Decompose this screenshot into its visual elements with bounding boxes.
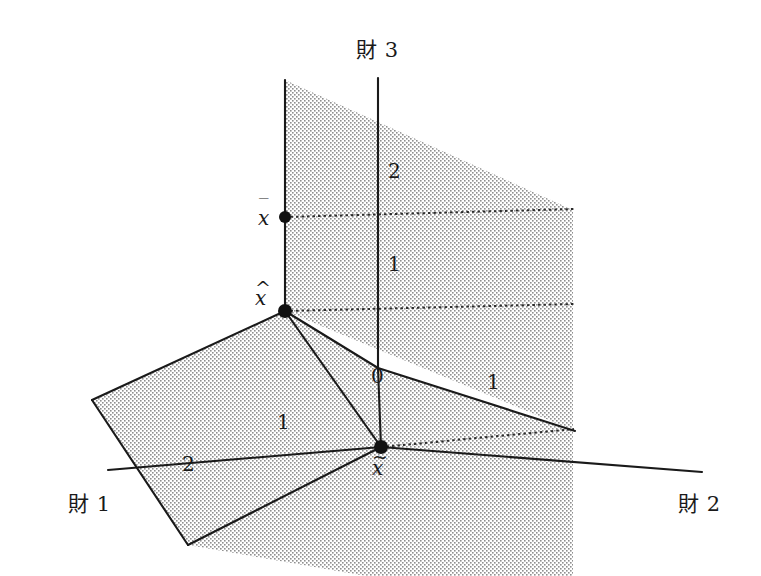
point-marker-x-bar[interactable]	[279, 211, 291, 223]
axis-label-good3: 財 3	[356, 40, 399, 61]
point-label-x-hat: ^x	[255, 288, 266, 308]
x-bar-glyph: ‾x	[258, 208, 269, 228]
tick-label-good3-1: 1	[388, 254, 401, 274]
diagram-svg	[0, 0, 761, 576]
figure-canvas: 財 1 財 2 財 3 0 2 1 1 1 2 ‾x ^x ~x	[0, 0, 761, 576]
hat-accent: ^	[255, 279, 266, 298]
x-hat-glyph: ^x	[255, 288, 266, 308]
point-label-x-tilde: ~x	[372, 458, 383, 478]
x-tilde-glyph: ~x	[372, 458, 383, 478]
tilde-accent: ~	[372, 447, 383, 466]
point-label-x-bar: ‾x	[258, 208, 269, 228]
tick-label-good2-1: 1	[487, 372, 500, 392]
axis-label-good1: 財 1	[68, 494, 111, 515]
tick-label-good1-2: 2	[182, 454, 195, 474]
tick-label-good3-2: 2	[388, 161, 401, 181]
point-marker-x-hat[interactable]	[278, 304, 292, 318]
bar-accent: ‾	[258, 196, 269, 215]
axis-label-good2: 財 2	[678, 494, 721, 515]
tick-label-good1-1: 1	[277, 412, 290, 432]
floor-plane-good1-good2	[366, 430, 573, 576]
origin-label: 0	[371, 366, 384, 386]
shaded-planes	[92, 80, 573, 576]
